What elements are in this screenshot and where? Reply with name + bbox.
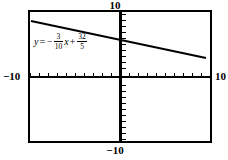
- equation-lhs: y: [34, 37, 38, 47]
- coordinate-plane-plot: [0, 0, 228, 160]
- slope-denominator: 10: [54, 43, 64, 51]
- slope-numerator: 3: [56, 33, 62, 41]
- equation-x-variable: x: [64, 37, 68, 47]
- equation-annotation: y = − 3 10 x + 32 5: [34, 33, 88, 51]
- axis-label-right: 10: [215, 71, 226, 82]
- intercept-numerator: 32: [77, 33, 87, 41]
- axis-label-top: 10: [1, 0, 228, 11]
- axis-label-bottom: −10: [1, 145, 228, 156]
- graph-figure: 10 −10 −10 10 y = − 3 10 x + 32 5: [0, 0, 228, 160]
- equation-equals-sign: =: [39, 37, 45, 47]
- equation-plus-sign: +: [70, 37, 76, 47]
- intercept-denominator: 5: [79, 43, 85, 51]
- equation-negative-sign: −: [47, 37, 53, 47]
- equation-slope-fraction: 3 10: [54, 33, 64, 51]
- axis-label-left: −10: [3, 71, 20, 82]
- equation-intercept-fraction: 32 5: [77, 33, 87, 51]
